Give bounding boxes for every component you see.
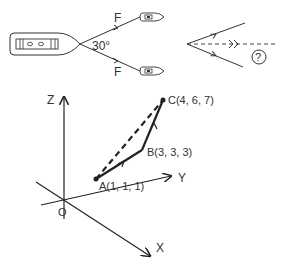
x-axis-label: X (156, 241, 164, 255)
vector-top (187, 23, 245, 44)
tug-boat-bottom-icon (140, 67, 164, 75)
point-b-label: B(3, 3, 3) (147, 146, 192, 158)
point-c-label: C(4, 6, 7) (168, 94, 214, 106)
y-axis-label: Y (178, 171, 186, 185)
origin-label: O (58, 206, 67, 218)
vector-diagram: F F 30° ? Z Y X O A(1, 1, 1) B(3, 3, 3) … (0, 0, 292, 271)
point-c-dot (161, 98, 166, 103)
large-boat-icon (10, 33, 80, 55)
vector-ab (96, 150, 142, 179)
z-axis-label: Z (47, 93, 54, 107)
coordinate-figure: Z Y X O A(1, 1, 1) B(3, 3, 3) C(4, 6, 7) (36, 93, 214, 256)
vector-ac-dashed (96, 100, 163, 179)
point-a-dot (94, 177, 99, 182)
point-a-label: A(1, 1, 1) (99, 180, 144, 192)
tug-boat-top-icon (140, 13, 164, 21)
angle-label: 30° (92, 39, 110, 53)
unknown-label: ? (255, 51, 261, 63)
boat-tow-figure: F F 30° (10, 11, 164, 79)
vector-sum-figure: ? (187, 23, 277, 67)
force-label-top: F (114, 11, 121, 25)
force-label-bottom: F (114, 65, 121, 79)
